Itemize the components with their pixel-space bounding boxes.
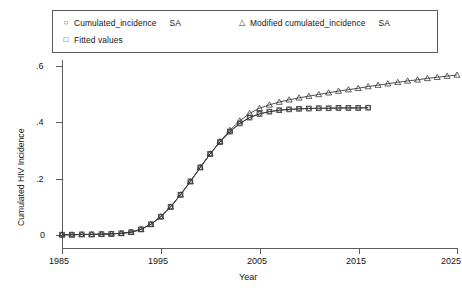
y-axis-title: Cumulated HIV Incidence [16, 129, 26, 226]
x-tick-mark [161, 248, 162, 254]
x-tick-label-2005: 2005 [247, 256, 267, 266]
y-tick-label-02: .2 [36, 174, 44, 184]
circle-marker-icon: ○ [61, 19, 71, 27]
legend-item-fitted-values: □ Fitted values [61, 35, 123, 45]
chart-figure: ○ Cumulated_incidence SA □ Fitted values… [0, 0, 462, 292]
x-tick-mark [62, 248, 63, 254]
y-axis-line [62, 60, 63, 248]
legend-item-cumulated-incidence: ○ Cumulated_incidence SA [61, 18, 181, 28]
x-tick-mark [457, 248, 458, 254]
y-tick-mark [56, 66, 62, 67]
triangle-marker-icon: △ [237, 19, 247, 27]
y-tick-label-0: 0 [40, 230, 45, 240]
y-tick-mark [56, 235, 62, 236]
legend-label-modified-cumulated-incidence: Modified cumulated_incidence [250, 18, 365, 28]
x-tick-label-2025: 2025 [441, 256, 461, 266]
x-tick-label-1995: 1995 [148, 256, 168, 266]
y-tick-mark [56, 179, 62, 180]
x-tick-mark [260, 248, 261, 254]
legend-item-modified-cumulated-incidence: △ Modified cumulated_incidence SA [237, 18, 390, 28]
legend-suffix-cumulated-incidence: SA [169, 18, 180, 28]
x-tick-label-2015: 2015 [346, 256, 366, 266]
x-axis-title: Year [239, 272, 257, 282]
y-tick-label-04: .4 [36, 117, 44, 127]
square-marker-icon: □ [61, 36, 71, 44]
legend-label-cumulated-incidence: Cumulated_incidence [74, 18, 156, 28]
x-tick-label-1985: 1985 [49, 256, 69, 266]
legend-label-fitted-values: Fitted values [74, 35, 123, 45]
y-tick-mark [56, 122, 62, 123]
x-tick-mark [359, 248, 360, 254]
y-tick-label-06: .6 [36, 61, 44, 71]
chart-legend: ○ Cumulated_incidence SA □ Fitted values… [52, 10, 438, 53]
legend-suffix-modified-cumulated-incidence: SA [378, 18, 389, 28]
